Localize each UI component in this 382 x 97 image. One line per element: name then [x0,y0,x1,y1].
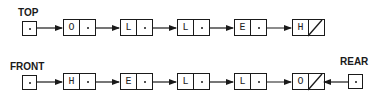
null-pointer [309,74,324,89]
queue-node-3: L [177,73,210,90]
node-next-pointer [137,74,152,89]
pointer-dot [144,81,146,83]
node-value: O [293,74,309,89]
null-pointer [309,20,324,35]
pointer-dot [144,27,146,29]
top-label: TOP [18,8,38,18]
node-next-pointer [251,74,266,89]
queue-node-4: L [234,73,267,90]
node-value: H [293,20,309,35]
node-next-pointer [80,74,95,89]
queue-node-5: O [292,73,325,90]
node-value: O [64,20,80,35]
pointer-dot [87,27,89,29]
pointer-dot [355,81,357,83]
node-value: L [178,74,194,89]
stack-node-3: L [177,19,210,36]
stack-node-1: O [63,19,96,36]
node-value: E [235,20,251,35]
node-value: E [121,74,137,89]
node-value: L [235,74,251,89]
queue-node-1: H [63,73,96,90]
pointer-dot [29,28,31,30]
rear-pointer-box [348,74,363,89]
node-value: H [64,74,80,89]
pointer-dot [258,81,260,83]
node-next-pointer [251,20,266,35]
stack-node-5: H [292,19,325,36]
node-next-pointer [137,20,152,35]
node-value: L [121,20,137,35]
rear-label: REAR [340,57,368,67]
top-pointer-box [22,21,37,36]
node-value: L [178,20,194,35]
front-pointer-box [22,75,37,90]
front-label: FRONT [10,62,44,72]
pointer-dot [201,81,203,83]
pointer-dot [258,27,260,29]
pointer-dot [29,82,31,84]
pointer-dot [201,27,203,29]
pointer-dot [87,81,89,83]
queue-node-2: E [120,73,153,90]
node-next-pointer [194,74,209,89]
stack-node-4: E [234,19,267,36]
node-next-pointer [80,20,95,35]
stack-node-2: L [120,19,153,36]
node-next-pointer [194,20,209,35]
